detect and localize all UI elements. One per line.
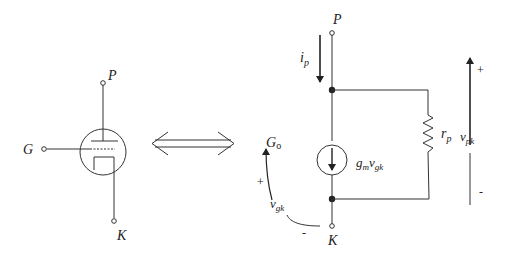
equivalent-circuit: P ip gmvgk K rp + - vpk Go + vgk <box>257 12 484 248</box>
triode-grid-label: G <box>23 142 33 157</box>
source-label: gmvgk <box>356 155 384 172</box>
cathode-electrode <box>94 157 114 218</box>
circuit-plate-label: P <box>332 12 342 27</box>
triode-equivalent-diagram: P G K P ip gmvgk <box>0 0 508 258</box>
plate-current-label: ip <box>300 50 309 68</box>
grid-terminal <box>42 147 47 152</box>
equivalence-arrow-icon <box>152 132 234 155</box>
plate-terminal <box>101 81 106 86</box>
resistor-icon <box>423 115 433 152</box>
vgk-minus: - <box>302 226 306 240</box>
vgk-arrow-icon <box>266 149 272 200</box>
cathode-terminal <box>112 219 117 224</box>
triode-plate-label: P <box>107 68 117 83</box>
vgk-curve-lower <box>287 215 320 226</box>
vpk-plus: + <box>477 63 484 77</box>
circuit-cathode-label: K <box>327 233 338 248</box>
circuit-cathode-terminal <box>330 224 335 229</box>
resistor-bottom-wire <box>428 152 429 199</box>
triode-cathode-label: K <box>116 228 127 243</box>
circuit-grid-label: Go <box>266 135 281 151</box>
vgk-label: vgk <box>270 196 285 213</box>
vgk-plus: + <box>257 175 264 189</box>
vpk-minus: - <box>479 185 483 199</box>
circuit-plate-terminal <box>330 31 335 36</box>
resistor-label: rp <box>441 126 451 144</box>
triode-symbol: P G K <box>23 68 127 243</box>
vpk-label: vpk <box>460 129 475 146</box>
